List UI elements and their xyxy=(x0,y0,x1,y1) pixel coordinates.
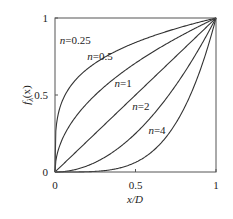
series-label-n-0-25: n=0.25 xyxy=(60,34,91,46)
x-tick-label: 1 xyxy=(213,179,219,191)
series-label-n-4: n=4 xyxy=(148,124,166,136)
svg-text:fλ(x): fλ(x) xyxy=(20,85,35,105)
y-tick-label: 0 xyxy=(43,166,49,178)
x-axis-label: x/D xyxy=(126,193,143,205)
series-label-n-2: n=2 xyxy=(132,100,149,112)
y-axis-label-paren: (x) xyxy=(20,85,33,98)
x-tick-label: 0 xyxy=(52,179,58,191)
series-label-n-1: n=1 xyxy=(115,77,132,89)
y-tick-label: 1 xyxy=(43,12,49,24)
line-chart: 00.5100.51 n=0.25n=0.5n=1n=2n=4 x/D fλ(x… xyxy=(0,0,233,219)
y-axis-label: fλ(x) xyxy=(20,85,35,105)
y-tick-label: 0.5 xyxy=(34,89,48,101)
series-labels-group: n=0.25n=0.5n=1n=2n=4 xyxy=(60,34,166,135)
series-label-n-0-5: n=0.5 xyxy=(87,50,113,62)
x-tick-label: 0.5 xyxy=(129,179,143,191)
